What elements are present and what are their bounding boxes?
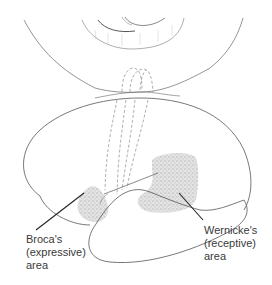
broca-label-line3: area [26,259,86,272]
broca-pointer [36,193,84,230]
wernicke-area-label: Wernicke's (receptive) area [204,224,257,263]
brain-language-areas-diagram: Broca's (expressive) area Wernicke's (re… [0,0,272,285]
tongue-curve [125,17,165,25]
broca-label-line1: Broca's [26,233,86,246]
mouth-outline [82,18,184,49]
wernicke-label-line2: (receptive) [204,237,257,250]
head-outline [24,18,243,92]
wernicke-label-line3: area [204,250,257,263]
broca-area-label: Broca's (expressive) area [26,233,86,272]
wernicke-label-line1: Wernicke's [204,224,257,237]
neural-pathways [105,68,153,195]
broca-label-line2: (expressive) [26,246,86,259]
brain-outline [24,98,251,210]
broca-area-shading [78,186,109,222]
